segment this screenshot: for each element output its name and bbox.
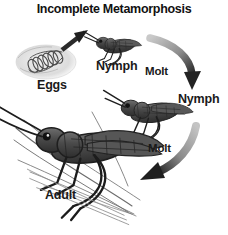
arrow-molt-1: [150, 38, 201, 90]
label-molt-1: Molt: [145, 66, 168, 78]
arrow-eggs-to-nymph: [62, 30, 88, 50]
metamorphosis-illustration: [0, 0, 228, 235]
label-molt-2: Molt: [148, 143, 171, 155]
label-eggs: Eggs: [37, 79, 67, 92]
label-nymph-1: Nymph: [96, 60, 137, 73]
figure-title: Incomplete Metamorphosis: [37, 2, 192, 16]
figure-canvas: Incomplete Metamorphosis Eggs Nymph Molt…: [0, 0, 228, 235]
label-adult: Adult: [45, 189, 76, 202]
label-nymph-2: Nymph: [178, 93, 219, 106]
eggs-illustration: [16, 45, 76, 79]
